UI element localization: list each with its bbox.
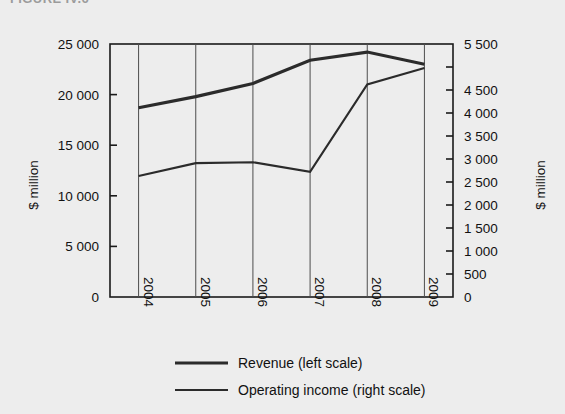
left-tick-label: 15 000 [58,138,99,153]
right-axis-tick-labels: 05001 0001 5002 0002 5003 0003 5004 0004… [464,37,498,305]
x-tick-label: 2005 [198,277,213,307]
right-tick-label: 5 500 [464,37,498,52]
line-chart: 05 00010 00015 00020 00025 000 05001 000… [0,0,565,414]
x-tick-label: 2009 [426,277,441,307]
right-tick-label: 2 000 [464,198,498,213]
left-axis-ticks [110,95,117,247]
x-tick-label: 2007 [312,277,327,307]
right-tick-label: 4 000 [464,106,498,121]
left-tick-label: 0 [91,290,99,305]
left-tick-label: 20 000 [58,88,99,103]
right-tick-label: 3 500 [464,129,498,144]
x-tick-label: 2008 [369,277,384,307]
series-line-operating-income [139,68,425,176]
right-tick-label: 1 500 [464,221,498,236]
left-tick-label: 25 000 [58,37,99,52]
right-axis-ticks [446,67,453,274]
x-tick-label: 2006 [255,277,270,307]
legend-label-revenue: Revenue (left scale) [238,355,363,371]
right-tick-label: 3 000 [464,152,498,167]
chart-container: 05 00010 00015 00020 00025 000 05001 000… [0,0,565,414]
right-axis-title: $ million [533,160,548,210]
right-tick-label: 500 [464,267,487,282]
right-tick-label: 2 500 [464,175,498,190]
grid-lines [139,44,425,297]
right-tick-label: 0 [464,290,472,305]
right-tick-label: 1 000 [464,244,498,259]
chart-legend: Revenue (left scale) Operating income (r… [175,355,426,398]
left-axis-tick-labels: 05 00010 00015 00020 00025 000 [58,37,99,305]
legend-label-operating-income: Operating income (right scale) [238,382,426,398]
x-axis-tick-labels: 200420052006200720082009 [141,277,442,308]
left-axis-title: $ million [26,160,41,210]
x-tick-label: 2004 [141,277,156,308]
right-tick-label: 4 500 [464,83,498,98]
left-tick-label: 10 000 [58,189,99,204]
left-tick-label: 5 000 [65,239,99,254]
